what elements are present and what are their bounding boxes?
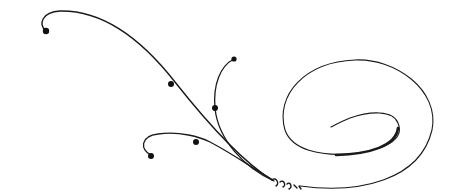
dot-terminal-top-left <box>43 28 49 34</box>
dot-node-lower-left <box>193 139 199 145</box>
lower-left-tendril <box>143 133 273 180</box>
dot-node-top-left <box>168 81 174 87</box>
dot-terminal-upper-middle <box>231 56 236 61</box>
flourish-illustration <box>0 0 459 196</box>
knot-twist <box>272 179 301 189</box>
dot-node-upper-middle <box>212 105 218 111</box>
inner-spiral-swash <box>336 128 398 155</box>
outer-spiral-loop <box>283 60 433 188</box>
dot-terminal-lower-left <box>148 153 154 159</box>
